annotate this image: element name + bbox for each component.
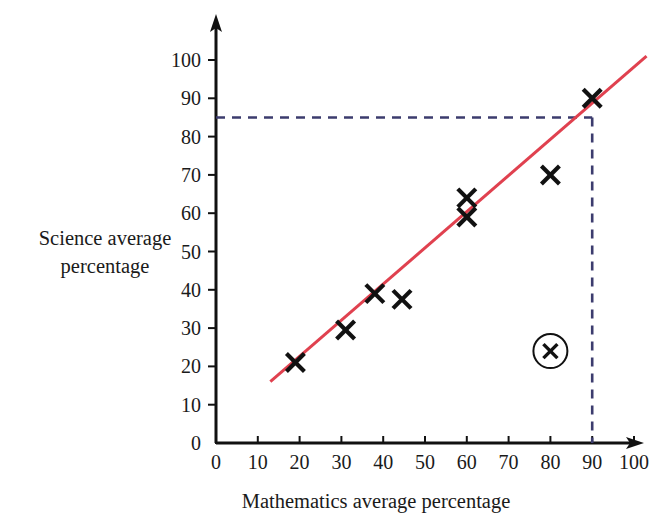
trend-line [270,56,646,382]
y-tick-label: 50 [181,241,201,263]
outlier-point-marker [543,344,557,358]
x-tick-label: 70 [499,451,519,473]
trend-line-group [270,56,646,382]
scatter-plot-figure: 0102030405060708090100 01020304050607080… [0,0,656,530]
x-tick-label: 10 [248,451,268,473]
y-axis-title-line-2: percentage [61,255,150,278]
x-tick-label: 0 [211,451,221,473]
y-tick-label: 80 [181,126,201,148]
data-point-marker [337,321,355,339]
y-tick-label: 20 [181,355,201,377]
y-tick-label: 10 [181,394,201,416]
x-tick-label: 100 [619,451,649,473]
x-tick-label: 20 [290,451,310,473]
x-tick-label: 30 [331,451,351,473]
y-tick-label: 60 [181,202,201,224]
x-tick-label: 80 [540,451,560,473]
x-tick-label: 40 [373,451,393,473]
x-axis-title: Mathematics average percentage [242,490,511,513]
data-point-marker [458,189,476,207]
x-tick-label: 60 [457,451,477,473]
guide-lines-group [216,117,592,443]
data-point-marker [286,354,304,372]
x-axis-tick-labels: 0102030405060708090100 [211,451,649,473]
circled-outlier-group [533,334,567,368]
data-point-marker [393,290,411,308]
y-tick-label: 40 [181,279,201,301]
y-axis-ticks [208,60,215,405]
y-tick-label: 30 [181,317,201,339]
data-point-marker [541,166,559,184]
axes-group [210,14,644,449]
x-tick-label: 90 [582,451,602,473]
y-tick-label: 90 [181,87,201,109]
y-tick-label: 0 [191,432,201,454]
x-tick-label: 50 [415,451,435,473]
y-tick-label: 70 [181,164,201,186]
y-axis-title-line-1: Science average [39,227,172,250]
y-tick-label: 100 [171,49,201,71]
data-point-marker [366,285,384,303]
plot-canvas: 0102030405060708090100 01020304050607080… [0,0,656,530]
y-axis-tick-labels: 0102030405060708090100 [171,49,201,454]
